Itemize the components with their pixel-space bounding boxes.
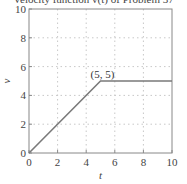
x-tick-label: 0 xyxy=(26,156,32,168)
y-tick-label: 0 xyxy=(21,147,27,159)
line-chart: 02468100246810 (5, 5) t v xyxy=(0,0,187,184)
x-axis-label: t xyxy=(99,169,103,181)
x-tick-label: 6 xyxy=(112,156,118,168)
point-annotation: (5, 5) xyxy=(91,68,115,81)
y-axis-label: v xyxy=(0,78,12,83)
y-tick-label: 8 xyxy=(21,32,27,44)
y-tick-label: 4 xyxy=(21,89,27,101)
x-tick-label: 4 xyxy=(83,156,89,168)
x-tick-label: 8 xyxy=(141,156,147,168)
x-tick-label: 10 xyxy=(167,156,179,168)
x-tick-label: 2 xyxy=(55,156,61,168)
velocity-line xyxy=(29,81,172,153)
y-tick-label: 6 xyxy=(21,61,27,73)
y-tick-label: 2 xyxy=(21,118,27,130)
y-tick-label: 10 xyxy=(15,3,27,15)
